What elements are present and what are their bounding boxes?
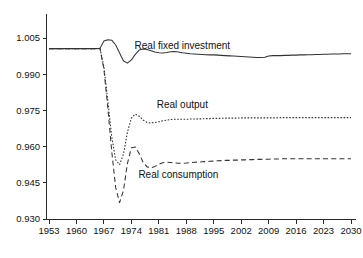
y-axis: 1.0050.9900.9750.9600.9450.930	[16, 14, 46, 224]
y-tick-label: 0.975	[16, 105, 40, 116]
x-tick-label: 1974	[121, 225, 142, 236]
x-axis: 1953196019671974198119881995200220092016…	[38, 220, 361, 237]
x-tick-label: 1960	[66, 225, 87, 236]
line-chart: 1.0050.9900.9750.9600.9450.930 195319601…	[0, 0, 363, 258]
y-tick-label: 0.945	[16, 177, 40, 188]
y-tick-group: 1.0050.9900.9750.9600.9450.930	[16, 32, 46, 224]
x-tick-label: 1981	[148, 225, 169, 236]
series-annotation-0: Real fixed investment	[135, 40, 231, 51]
x-tick-label: 1995	[203, 225, 224, 236]
y-tick-label: 1.005	[16, 32, 40, 43]
x-tick-label: 2002	[231, 225, 252, 236]
y-tick-label: 0.960	[16, 141, 40, 152]
x-tick-label: 2030	[340, 225, 361, 236]
x-tick-group: 1953196019671974198119881995200220092016…	[38, 220, 361, 237]
chart-container: 1.0050.9900.9750.9600.9450.930 195319601…	[0, 0, 363, 258]
annotation-group: Real fixed investmentReal outputReal con…	[135, 40, 231, 180]
series-annotation-2: Real consumption	[138, 169, 218, 180]
y-tick-label: 0.990	[16, 69, 40, 80]
x-tick-label: 2016	[286, 225, 307, 236]
y-tick-label: 0.930	[16, 213, 40, 224]
x-tick-label: 2009	[258, 225, 279, 236]
x-tick-label: 1967	[93, 225, 114, 236]
x-tick-label: 2023	[313, 225, 334, 236]
series-annotation-1: Real output	[157, 99, 208, 110]
x-tick-label: 1988	[176, 225, 197, 236]
x-tick-label: 1953	[38, 225, 59, 236]
